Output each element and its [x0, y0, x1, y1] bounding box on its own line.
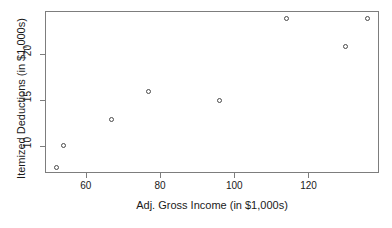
y-tick-mark: [40, 146, 45, 147]
x-tick-label: 60: [71, 180, 101, 191]
x-tick-label: 80: [145, 180, 175, 191]
x-tick-mark: [160, 173, 161, 178]
x-tick-mark: [308, 173, 309, 178]
y-tick-mark: [40, 54, 45, 55]
x-tick-label: 100: [219, 180, 249, 191]
x-tick-label: 120: [293, 180, 323, 191]
x-tick-mark: [234, 173, 235, 178]
x-axis-title: Adj. Gross Income (in $1,000s): [45, 199, 379, 212]
data-point: [54, 165, 59, 170]
data-point: [284, 16, 289, 21]
plot-area-frame: [45, 11, 379, 173]
y-axis-title: Itemized Deductions (in $1,000s): [15, 9, 28, 189]
scatter-plot-figure: 101520 6080100120 Itemized Deductions (i…: [0, 0, 392, 228]
y-tick-mark: [40, 100, 45, 101]
data-point: [109, 117, 114, 122]
x-tick-mark: [86, 173, 87, 178]
